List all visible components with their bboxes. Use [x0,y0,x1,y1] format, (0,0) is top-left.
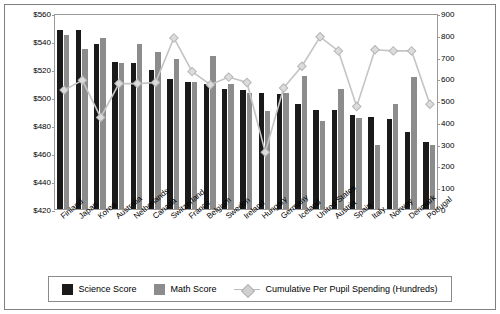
y2-axis-tick-label: 800 [441,33,454,41]
y2-axis-tick [437,189,440,190]
y-axis-tick-label: $520 [33,67,51,75]
y2-axis-tick [437,37,440,38]
spending-marker [151,78,159,86]
legend-label-spending: Cumulative Per Pupil Spending (Hundreds) [265,284,437,294]
y-axis-tick [52,99,55,100]
y-axis-tick-label: $440 [33,179,51,187]
legend-swatch-science [62,284,73,295]
plot-area: $420$440$460$480$500$520$540$56001002003… [54,14,438,210]
y2-axis-tick-label: 900 [441,11,454,19]
spending-marker [115,79,123,87]
spending-marker [224,73,232,81]
y-axis-tick-label: $460 [33,151,51,159]
y-axis-tick-label: $500 [33,95,51,103]
spending-marker [389,47,397,55]
y2-axis-tick-label: 500 [441,98,454,106]
y-axis-tick [52,127,55,128]
legend-item-science: Science Score [62,284,136,295]
y-axis-tick [52,43,55,44]
y2-axis-tick [437,80,440,81]
spending-marker [170,34,178,42]
legend-item-math: Math Score [154,284,216,295]
y2-axis-tick-label: 200 [441,163,454,171]
spending-marker [371,46,379,54]
x-axis-labels: FinlandJapanKoreaAustraliaNetherlandsCan… [54,212,438,272]
y2-axis-tick [437,15,440,16]
y2-axis-tick [437,59,440,60]
spending-marker [426,100,434,108]
legend-line-marker-icon [234,284,260,295]
y2-axis-tick [437,102,440,103]
y2-axis-tick [437,124,440,125]
y-axis-tick [52,15,55,16]
chart-legend: Science Score Math Score Cumulative Per … [48,276,452,302]
y-axis-tick-label: $480 [33,123,51,131]
spending-marker [96,113,104,121]
spending-marker [407,47,415,55]
y-axis-tick-label: $420 [33,207,51,215]
spending-marker [133,79,141,87]
line-series-layer [55,15,439,211]
y2-axis-tick-label: 700 [441,55,454,63]
legend-swatch-math [154,284,165,295]
y-axis-tick-label: $540 [33,39,51,47]
spending-marker [261,148,269,156]
y2-axis-tick [437,146,440,147]
spending-marker [78,76,86,84]
legend-label-math: Math Score [170,284,216,294]
spending-marker [352,102,360,110]
spending-marker [243,78,251,86]
y-axis-tick [52,155,55,156]
y-axis-tick [52,183,55,184]
y2-axis-tick [437,167,440,168]
chart-container: $420$440$460$480$500$520$540$56001002003… [0,0,500,314]
y2-axis-tick-label: 600 [441,76,454,84]
y2-axis-tick-label: 100 [441,185,454,193]
y-axis-tick-label: $560 [33,11,51,19]
y2-axis-tick-label: 400 [441,120,454,128]
y2-axis-tick-label: 300 [441,142,454,150]
legend-item-spending: Cumulative Per Pupil Spending (Hundreds) [234,284,437,295]
legend-label-science: Science Score [78,284,136,294]
y-axis-tick [52,71,55,72]
spending-marker [60,86,68,94]
